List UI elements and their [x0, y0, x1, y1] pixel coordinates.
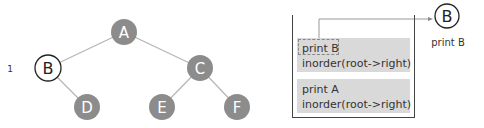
node-f: F: [224, 94, 250, 120]
svg-text:C: C: [195, 60, 205, 78]
node-b-current: B: [35, 55, 61, 81]
arrow-head-icon: [428, 17, 433, 21]
node-c: C: [187, 55, 213, 81]
svg-text:B: B: [442, 7, 453, 26]
svg-text:B: B: [43, 59, 54, 78]
step-number-label: 1: [7, 64, 13, 74]
frame-line-call: inorder(root->right): [302, 97, 410, 112]
node-e: E: [149, 94, 175, 120]
svg-text:E: E: [157, 99, 166, 117]
frame-line-call: inorder(root->right): [302, 56, 410, 71]
frame-line-print: print A: [302, 82, 410, 97]
svg-text:D: D: [81, 99, 93, 117]
call-stack: print B inorder(root->right) print A ino…: [292, 15, 415, 118]
output-node-b: B: [435, 4, 459, 28]
node-d: D: [74, 94, 100, 120]
node-a: A: [111, 19, 137, 45]
output-caption: print B: [430, 37, 466, 48]
stack-frame-bottom: print A inorder(root->right): [297, 79, 410, 113]
svg-text:F: F: [233, 99, 242, 117]
stack-frame-top: print B inorder(root->right): [297, 38, 410, 72]
svg-text:A: A: [119, 24, 130, 42]
frame-line-print: print B: [302, 41, 410, 56]
